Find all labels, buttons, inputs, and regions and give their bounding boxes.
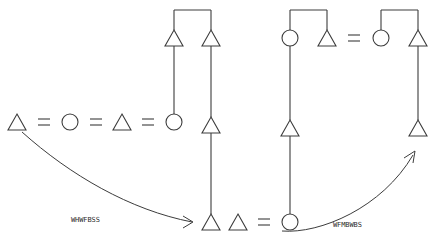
circle-node[interactable]	[166, 114, 182, 130]
edge-label-right: WFMBWBS	[333, 221, 362, 229]
triangle-node[interactable]	[202, 30, 220, 46]
diagram-canvas: WHWFBSS WFMBWBS	[0, 0, 439, 250]
equals-signs-group	[38, 35, 360, 225]
triangle-node[interactable]	[165, 30, 183, 46]
circle-node[interactable]	[62, 114, 78, 130]
tree-diagram-svg: WHWFBSS WFMBWBS	[0, 0, 439, 250]
triangle-node[interactable]	[229, 214, 247, 230]
triangle-node[interactable]	[202, 214, 220, 230]
equals-sign	[258, 219, 270, 225]
circle-node[interactable]	[373, 30, 389, 46]
right-curved-arrow-group: WFMBWBS	[282, 151, 415, 231]
triangle-node[interactable]	[113, 114, 131, 130]
circle-node[interactable]	[282, 214, 298, 230]
triangle-node[interactable]	[409, 30, 427, 46]
far-right-chain-group	[381, 10, 418, 120]
curved-arrow	[22, 132, 192, 222]
left-curved-arrow-group: WHWFBSS	[22, 132, 193, 228]
equals-sign	[142, 119, 154, 125]
circle-node[interactable]	[282, 30, 298, 46]
triangle-node[interactable]	[318, 30, 336, 46]
edge-label-left: WHWFBSS	[71, 216, 100, 224]
triangle-node[interactable]	[409, 120, 427, 136]
circle-nodes-group	[62, 30, 389, 230]
equals-sign	[90, 119, 102, 125]
equals-sign	[38, 119, 50, 125]
curved-arrow	[282, 155, 413, 231]
triangle-node[interactable]	[202, 117, 220, 133]
triangle-node[interactable]	[281, 120, 299, 136]
equals-sign	[348, 35, 360, 41]
triangle-node[interactable]	[8, 114, 26, 130]
